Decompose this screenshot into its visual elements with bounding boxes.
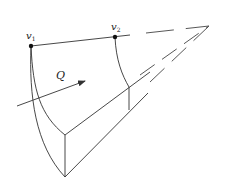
v2-point bbox=[113, 35, 117, 39]
flow-diagram: v1 v2 Q bbox=[0, 0, 225, 194]
v1-label: v1 bbox=[26, 30, 35, 42]
v2-label: v2 bbox=[111, 21, 121, 33]
flow-label: Q bbox=[56, 69, 65, 82]
v2-curve bbox=[115, 37, 129, 87]
v1-point bbox=[29, 44, 33, 48]
outer-curve bbox=[31, 46, 65, 177]
flow-arrow bbox=[17, 81, 85, 106]
upper-ray-dashed bbox=[140, 26, 209, 75]
lower-ray-dashed bbox=[150, 26, 209, 82]
top-edge-dashed bbox=[146, 26, 209, 33]
outer-bottom-line bbox=[65, 93, 148, 177]
